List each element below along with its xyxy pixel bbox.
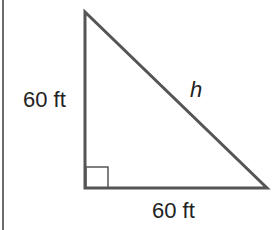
right-angle-marker — [86, 167, 108, 188]
triangle-shape — [85, 12, 267, 188]
hypotenuse-label: h — [190, 79, 202, 101]
horizontal-leg-label: 60 ft — [152, 200, 195, 222]
vertical-leg-label: 60 ft — [23, 89, 66, 111]
right-triangle-diagram — [0, 0, 280, 230]
